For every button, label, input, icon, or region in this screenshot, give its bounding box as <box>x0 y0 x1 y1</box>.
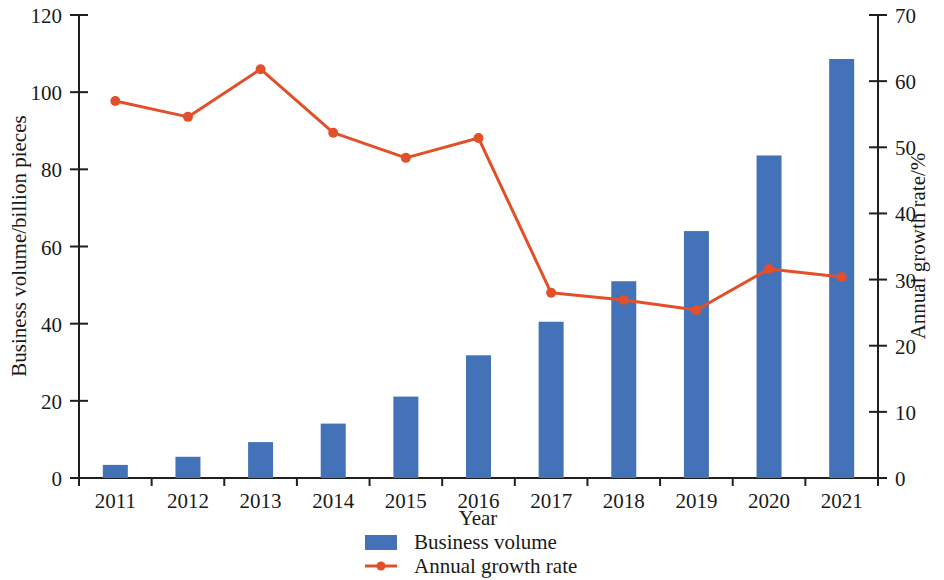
growth-rate-point-2013 <box>256 64 266 74</box>
chart-container: 020406080100120 010203040506070 20112012… <box>0 0 944 580</box>
growth-rate-point-2018 <box>619 295 629 305</box>
x-label-2014: 2014 <box>312 489 355 513</box>
bar-2018 <box>611 281 636 478</box>
bar-2015 <box>393 397 418 478</box>
growth-rate-point-2019 <box>691 305 701 315</box>
growth-rate-point-2014 <box>328 128 338 138</box>
legend: Business volume Annual growth rate <box>365 530 577 578</box>
x-axis-ticks <box>79 478 878 486</box>
left-tick-label: 100 <box>31 81 63 105</box>
x-label-2013: 2013 <box>240 489 282 513</box>
growth-rate-point-2011 <box>110 96 120 106</box>
x-label-2021: 2021 <box>821 489 863 513</box>
x-label-2020: 2020 <box>748 489 790 513</box>
x-label-2011: 2011 <box>95 489 136 513</box>
legend-label-business-volume: Business volume <box>414 530 557 554</box>
bar-2011 <box>103 465 128 478</box>
x-label-2017: 2017 <box>530 489 572 513</box>
right-tick-label: 70 <box>895 4 916 28</box>
legend-label-annual-growth-rate: Annual growth rate <box>414 554 577 578</box>
bar-2021 <box>829 59 854 478</box>
bar-2012 <box>175 457 200 478</box>
growth-rate-point-2021 <box>837 272 847 282</box>
x-label-2019: 2019 <box>675 489 717 513</box>
legend-marker-annual-growth-rate <box>377 562 386 571</box>
chart-svg: 020406080100120 010203040506070 20112012… <box>0 0 944 580</box>
left-tick-label: 60 <box>41 236 62 260</box>
growth-rate-point-2020 <box>764 264 774 274</box>
x-label-2018: 2018 <box>603 489 645 513</box>
x-label-2015: 2015 <box>385 489 427 513</box>
x-label-2012: 2012 <box>167 489 209 513</box>
bar-2013 <box>248 442 273 478</box>
bar-2017 <box>539 322 564 478</box>
growth-rate-point-2015 <box>401 153 411 163</box>
left-tick-label: 120 <box>31 4 63 28</box>
left-tick-label: 20 <box>41 390 62 414</box>
line-series-annual-growth-rate <box>110 64 846 315</box>
bar-series-business-volume <box>103 59 854 478</box>
growth-rate-point-2012 <box>183 112 193 122</box>
growth-rate-point-2016 <box>474 133 484 143</box>
left-tick-label: 0 <box>52 467 63 491</box>
bar-2020 <box>757 155 782 478</box>
bar-2014 <box>321 424 346 478</box>
left-tick-label: 40 <box>41 313 62 337</box>
left-tick-label: 80 <box>41 158 62 182</box>
right-tick-label: 0 <box>895 467 906 491</box>
legend-swatch-business-volume <box>365 535 397 550</box>
growth-rate-polyline <box>115 69 841 310</box>
y2-axis-title: Annual growth rate/% <box>906 153 930 340</box>
bar-2016 <box>466 355 491 478</box>
right-tick-label: 60 <box>895 70 916 94</box>
y-axis-title: Business volume/billion pieces <box>7 115 31 376</box>
bar-2019 <box>684 231 709 478</box>
x-axis-title: Year <box>459 506 498 530</box>
right-tick-label: 10 <box>895 401 916 425</box>
growth-rate-point-2017 <box>546 288 556 298</box>
